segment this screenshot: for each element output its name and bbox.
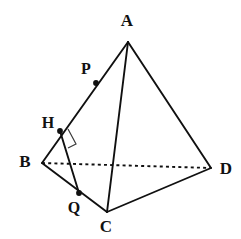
right-angle-marker-icon — [68, 129, 76, 148]
point-label-Q: Q — [68, 199, 80, 216]
point-label-H: H — [42, 114, 55, 131]
point-dot-H — [57, 128, 63, 134]
point-label-P: P — [81, 60, 91, 77]
edge-BD-hidden — [42, 163, 211, 168]
tetrahedron-diagram: A B C D P H Q — [0, 0, 241, 239]
edge-AD — [128, 42, 211, 168]
geometry-figure-canvas: A B C D P H Q — [0, 0, 241, 239]
vertex-label-A: A — [121, 11, 134, 30]
point-dot-Q — [76, 190, 82, 196]
point-dot-P — [93, 80, 99, 86]
vertex-label-B: B — [19, 152, 30, 171]
vertex-label-D: D — [220, 159, 232, 178]
vertex-label-C: C — [100, 217, 112, 236]
edge-CD — [107, 168, 211, 212]
